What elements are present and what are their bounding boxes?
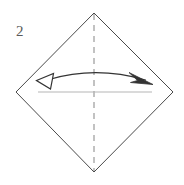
origami-step-diagram: 2 — [0, 0, 184, 185]
figure-canvas: 2 — [0, 0, 184, 185]
fold-arrow-solid-arrowhead-right — [129, 73, 153, 85]
fold-arrow-hollow-arrowhead-left — [37, 74, 54, 90]
step-number-label: 2 — [16, 23, 24, 39]
